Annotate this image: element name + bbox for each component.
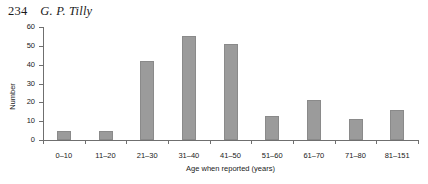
plot-area: 01020304050600–1011–2021–3031–4041–5051–… — [43, 27, 418, 140]
y-axis-tick-label: 20 — [13, 97, 35, 106]
x-axis-title: Age when reported (years) — [43, 164, 418, 173]
bar — [349, 119, 363, 140]
figure-page: 234 G. P. Tilly Number 01020304050600–10… — [0, 0, 428, 184]
y-axis-line — [43, 27, 44, 140]
bar — [265, 116, 279, 140]
bar — [140, 61, 154, 140]
x-axis-tick — [43, 140, 44, 144]
y-axis-tick-label: 30 — [13, 79, 35, 88]
x-axis-line — [43, 140, 418, 141]
y-axis-tick-label: 10 — [13, 116, 35, 125]
y-axis-tick — [39, 65, 43, 66]
bar — [99, 131, 113, 140]
author-name: G. P. Tilly — [40, 4, 92, 19]
y-axis-tick-label: 0 — [13, 135, 35, 144]
running-header: 234 G. P. Tilly — [8, 4, 92, 22]
bar-chart: Number 01020304050600–1011–2021–3031–404… — [0, 22, 428, 184]
bar — [57, 131, 71, 140]
y-axis-tick — [39, 102, 43, 103]
x-axis-category-label: 81–151 — [371, 151, 423, 160]
y-axis-tick-label: 50 — [13, 41, 35, 50]
y-axis-tick — [39, 84, 43, 85]
x-axis-tick — [251, 140, 252, 144]
bar — [224, 44, 238, 140]
x-axis-tick — [168, 140, 169, 144]
x-axis-tick — [126, 140, 127, 144]
x-axis-tick — [293, 140, 294, 144]
x-axis-tick — [418, 140, 419, 144]
bar — [307, 100, 321, 140]
y-axis-tick — [39, 46, 43, 47]
y-axis-tick — [39, 121, 43, 122]
bar — [390, 110, 404, 140]
y-axis-tick-label: 40 — [13, 60, 35, 69]
x-axis-tick — [85, 140, 86, 144]
page-number: 234 — [8, 4, 27, 19]
y-axis-tick — [39, 27, 43, 28]
x-axis-tick — [376, 140, 377, 144]
x-axis-tick — [335, 140, 336, 144]
x-axis-tick — [210, 140, 211, 144]
bar — [182, 36, 196, 140]
y-axis-tick-label: 60 — [13, 22, 35, 31]
